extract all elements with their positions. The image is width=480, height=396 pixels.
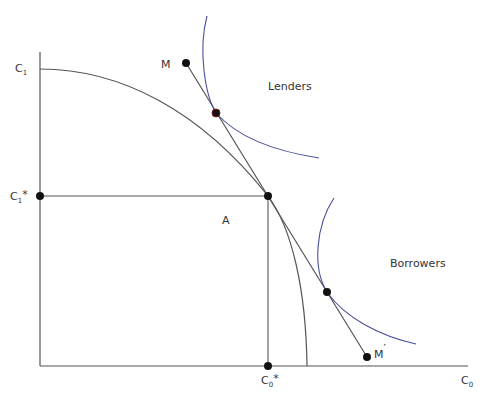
point-a-label: A	[222, 214, 230, 227]
c1-star-point	[36, 192, 44, 200]
diagram-canvas: C1 C1* C0* C0 A M M′ Lenders Borrowers	[0, 0, 480, 396]
c1-star-label: C1*	[10, 188, 28, 205]
borrowers-label: Borrowers	[390, 257, 446, 270]
borrowers-indifference-curve	[318, 198, 416, 344]
lenders-label: Lenders	[268, 80, 312, 93]
optimum-point-a	[264, 192, 272, 200]
point-m-prime	[363, 353, 371, 361]
x-axis-label: C0	[461, 374, 473, 389]
point-m	[182, 59, 190, 67]
point-m-label: M	[161, 58, 171, 71]
c0-star-point	[264, 362, 272, 370]
borrowers-tangency-point	[323, 288, 331, 296]
lenders-tangency-point	[212, 109, 220, 117]
production-frontier-curve	[40, 69, 307, 366]
y-axis-label: C1	[15, 62, 27, 77]
c0-star-label: C0*	[261, 372, 279, 389]
point-m-prime-label: M′	[374, 342, 387, 361]
